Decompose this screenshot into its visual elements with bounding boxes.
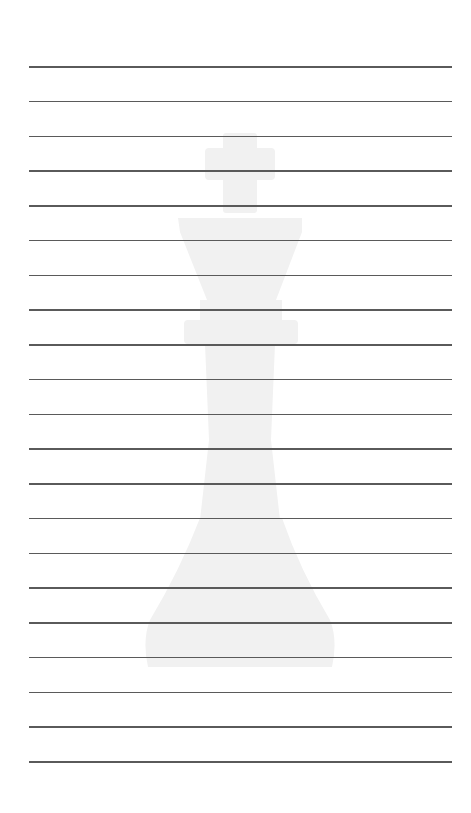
ruled-line	[29, 726, 452, 728]
ruled-line	[29, 66, 452, 68]
ruled-line	[29, 414, 452, 416]
lined-paper-page	[0, 0, 471, 813]
ruled-line	[29, 761, 452, 763]
ruled-lines	[0, 0, 471, 813]
ruled-line	[29, 170, 452, 172]
ruled-line	[29, 518, 452, 520]
ruled-line	[29, 587, 452, 589]
ruled-line	[29, 136, 452, 138]
ruled-line	[29, 692, 452, 694]
ruled-line	[29, 448, 452, 450]
ruled-line	[29, 553, 452, 555]
ruled-line	[29, 657, 452, 659]
ruled-line	[29, 483, 452, 485]
ruled-line	[29, 275, 452, 277]
ruled-line	[29, 379, 452, 381]
ruled-line	[29, 309, 452, 311]
ruled-line	[29, 344, 452, 346]
ruled-line	[29, 622, 452, 624]
ruled-line	[29, 240, 452, 242]
ruled-line	[29, 205, 452, 207]
ruled-line	[29, 101, 452, 103]
